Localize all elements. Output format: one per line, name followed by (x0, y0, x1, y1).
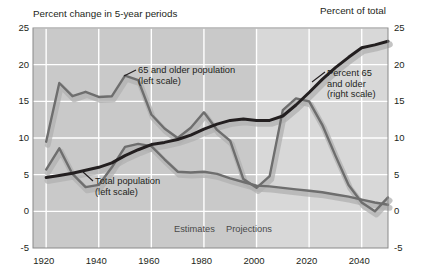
annotation-65-and-older-population: 65 and older population (left scale) (138, 65, 235, 86)
y-axis-right-tick-label: 10 (394, 132, 405, 143)
era-label-projections: Projections (226, 224, 272, 234)
annotation-percent65-line3: (right scale) (327, 89, 376, 99)
x-axis-tick-label: 1960 (138, 255, 159, 266)
right-axis-title: Percent of total (320, 5, 386, 16)
y-axis-left-tick-label: 25 (18, 22, 29, 33)
x-axis-tick-label: 1920 (33, 255, 54, 266)
chart-figure: Percent change in 5-year periods Percent… (0, 0, 428, 273)
x-axis-tick-label: 2020 (296, 255, 317, 266)
y-axis-left-tick-label: 10 (18, 132, 29, 143)
y-axis-right-tick-label: 5 (394, 169, 399, 180)
y-axis-right-tick-label: 20 (394, 59, 405, 70)
y-axis-right-tick-label: 15 (394, 95, 405, 106)
annotation-65-older-line1: 65 and older population (138, 65, 235, 75)
y-axis-left-tick-label: -5 (21, 242, 29, 253)
annotation-total-population: Total population (left scale) (95, 176, 160, 197)
x-axis-tick-label: 2040 (349, 255, 370, 266)
annotation-65-older-line2: (left scale) (138, 76, 181, 86)
era-label-estimates: Estimates (174, 224, 215, 234)
y-axis-left-tick-label: 5 (24, 169, 29, 180)
annotation-percent65-line1: Percent 65 (327, 68, 372, 78)
x-axis-tick-label: 1940 (86, 255, 107, 266)
y-axis-right-tick-label: -5 (394, 242, 402, 253)
left-axis-title: Percent change in 5-year periods (33, 8, 177, 19)
y-axis-left-tick-label: 0 (24, 205, 29, 216)
y-axis-right-tick-label: 25 (394, 22, 405, 33)
annotation-total-pop-line2: (left scale) (95, 187, 138, 197)
annotation-percent-65-and-older: Percent 65 and older (right scale) (327, 68, 376, 100)
y-axis-left-tick-label: 20 (18, 59, 29, 70)
y-axis-right-tick-label: 0 (394, 205, 399, 216)
x-axis-tick-label: 1980 (191, 255, 212, 266)
annotation-percent65-line2: and older (327, 79, 366, 89)
annotation-total-pop-line1: Total population (95, 176, 160, 186)
x-axis-tick-label: 2000 (244, 255, 265, 266)
y-axis-left-tick-label: 15 (18, 95, 29, 106)
